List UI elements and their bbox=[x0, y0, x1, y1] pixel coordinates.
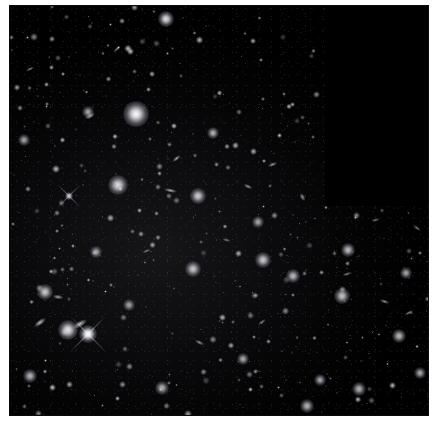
deep-field-image bbox=[10, 6, 428, 415]
unexposed-notch bbox=[325, 6, 428, 206]
image-caption bbox=[10, 418, 428, 430]
page-root bbox=[0, 0, 441, 432]
